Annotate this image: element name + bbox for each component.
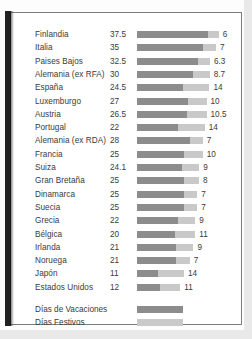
bar-segment-vacaciones	[137, 111, 187, 118]
chart-row: Suiza24.19	[10, 161, 242, 174]
bar-segment-vacaciones	[137, 98, 188, 105]
stacked-bar	[137, 284, 180, 291]
stacked-bar-chart: Finlandia37.56Italia357Paises Bajos32.56…	[10, 12, 242, 325]
legend-label: Días de Vacaciones	[35, 303, 107, 316]
chart-row: Alemania (ex RDA)287	[10, 134, 242, 147]
bar-segment-vacaciones	[137, 137, 190, 144]
chart-row: Irlanda219	[10, 241, 242, 254]
vacation-days-value: 28	[110, 134, 136, 147]
stacked-bar	[137, 137, 203, 144]
bar-segment-festivos	[188, 98, 207, 105]
vacation-days-value: 26.5	[110, 108, 136, 121]
holiday-days-value: 7	[194, 254, 199, 267]
chart-row: Alemania (ex RFA)308.7	[10, 68, 242, 81]
chart-row: Dinamarca257	[10, 188, 242, 201]
stacked-bar	[137, 231, 195, 238]
bar-segment-vacaciones	[137, 204, 184, 211]
bar-segment-festivos	[184, 191, 197, 198]
holiday-days-value: 7	[207, 134, 212, 147]
stacked-bar	[137, 244, 193, 251]
vacation-days-value: 20	[110, 228, 136, 241]
vacation-days-value: 32.5	[110, 55, 136, 68]
bar-segment-vacaciones	[137, 284, 160, 291]
stacked-bar	[137, 44, 216, 51]
chart-row: Suecia257	[10, 201, 242, 214]
legend-swatch-holiday	[137, 319, 183, 326]
holiday-days-value: 11	[199, 228, 208, 241]
chart-row: Portugal2214	[10, 121, 242, 134]
bar-segment-vacaciones	[137, 191, 184, 198]
chart-row: Japón1114	[10, 267, 242, 280]
stacked-bar	[137, 164, 199, 171]
bar-segment-vacaciones	[137, 177, 184, 184]
bar-segment-festivos	[158, 270, 184, 277]
bar-segment-festivos	[187, 111, 207, 118]
scanned-chart-page: Finlandia37.56Italia357Paises Bajos32.56…	[0, 0, 252, 339]
holiday-days-value: 8	[203, 174, 208, 187]
holiday-days-value: 8.7	[214, 68, 225, 81]
stacked-bar	[137, 58, 210, 65]
vacation-days-value: 12	[110, 281, 136, 294]
stacked-bar	[137, 204, 197, 211]
holiday-days-value: 6.3	[214, 55, 225, 68]
bar-segment-festivos	[178, 124, 204, 131]
bar-segment-festivos	[175, 231, 196, 238]
stacked-bar	[137, 270, 184, 277]
holiday-days-value: 7	[201, 188, 206, 201]
chart-row: Noruega217	[10, 254, 242, 267]
legend-label: Días Festivos	[35, 316, 85, 329]
bar-segment-festivos	[184, 151, 203, 158]
vacation-days-value: 30	[110, 68, 136, 81]
bar-segment-festivos	[178, 217, 195, 224]
vacation-days-value: 25	[110, 188, 136, 201]
chart-row: Gran Bretaña258	[10, 174, 242, 187]
vacation-days-value: 27	[110, 95, 136, 108]
holiday-days-value: 14	[188, 267, 197, 280]
bar-segment-vacaciones	[137, 257, 176, 264]
stacked-bar	[137, 84, 209, 91]
bar-segment-vacaciones	[137, 270, 158, 277]
bar-segment-festivos	[184, 204, 197, 211]
bar-segment-vacaciones	[137, 151, 184, 158]
holiday-days-value: 9	[197, 241, 202, 254]
holiday-days-value: 10.5	[211, 108, 227, 121]
chart-row: Bélgica2011	[10, 228, 242, 241]
bar-segment-festivos	[184, 177, 199, 184]
holiday-days-value: 10	[211, 95, 220, 108]
holiday-days-value: 10	[207, 148, 216, 161]
vacation-days-value: 25	[110, 201, 136, 214]
bar-segment-vacaciones	[137, 124, 178, 131]
holiday-days-value: 7	[201, 201, 206, 214]
vacation-days-value: 24.5	[110, 81, 136, 94]
holiday-days-value: 11	[184, 281, 193, 294]
chart-row: Finlandia37.56	[10, 28, 242, 41]
legend-item: Días de Vacaciones	[10, 303, 242, 316]
chart-row: Austria26.510.5	[10, 108, 242, 121]
bar-segment-festivos	[203, 44, 216, 51]
stacked-bar	[137, 217, 195, 224]
holiday-days-value: 9	[203, 161, 208, 174]
bar-segment-vacaciones	[137, 84, 183, 91]
stacked-bar	[137, 111, 207, 118]
legend-item: Días Festivos	[10, 316, 242, 329]
stacked-bar	[137, 257, 190, 264]
vacation-days-value: 22	[110, 121, 136, 134]
stacked-bar	[137, 124, 205, 131]
bar-segment-festivos	[183, 84, 209, 91]
vacation-days-value: 37.5	[110, 28, 136, 41]
chart-row: Paises Bajos32.56.3	[10, 55, 242, 68]
stacked-bar	[137, 98, 207, 105]
stacked-bar	[137, 71, 210, 78]
stacked-bar	[137, 191, 197, 198]
chart-row: Italia357	[10, 41, 242, 54]
vacation-days-value: 25	[110, 148, 136, 161]
vacation-days-value: 24.1	[110, 161, 136, 174]
bar-segment-festivos	[190, 137, 203, 144]
chart-row: Estados Unidos1211	[10, 281, 242, 294]
chart-row: Luxemburgo2710	[10, 95, 242, 108]
holiday-days-value: 14	[209, 121, 218, 134]
vacation-days-value: 21	[110, 241, 136, 254]
bar-segment-festivos	[198, 58, 210, 65]
bar-segment-festivos	[193, 71, 209, 78]
stacked-bar	[137, 151, 203, 158]
